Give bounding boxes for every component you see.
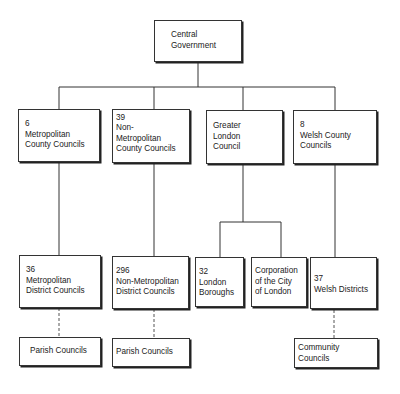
node-label: County Councils — [25, 140, 95, 151]
london-boroughs-box: 32 London Boroughs — [195, 257, 244, 307]
node-label: London — [213, 132, 278, 143]
node-count: 6 — [25, 119, 95, 130]
metropolitan-district-councils-box: 36 Metropolitan District Councils — [19, 255, 101, 308]
org-chart: Central Government 6 Metropolitan County… — [0, 0, 400, 394]
metropolitan-county-councils-box: 6 Metropolitan County Councils — [18, 109, 100, 162]
node-label: Non-Metropolitan — [116, 277, 186, 288]
node-count: 8 — [300, 120, 372, 131]
node-label: Government — [171, 41, 237, 52]
parish-councils-non-metropolitan-box: Parish Councils — [112, 338, 190, 367]
node-label: London — [199, 278, 241, 289]
node-label: Metropolitan — [26, 276, 96, 287]
node-label: Community — [298, 343, 375, 354]
community-councils-box: Community Councils — [294, 338, 378, 368]
node-label: County Councils — [116, 144, 187, 154]
node-label: Central — [171, 30, 237, 41]
welsh-county-councils-box: 8 Welsh County Councils — [293, 110, 377, 164]
node-count: 36 — [26, 265, 96, 276]
node-label: District Councils — [26, 286, 96, 297]
non-metropolitan-county-councils-box: 39 Non- Metropolitan County Councils — [112, 109, 190, 163]
node-label: Welsh County — [300, 131, 372, 142]
welsh-districts-box: 37 Welsh Districts — [310, 257, 377, 309]
node-count: 37 — [314, 274, 374, 285]
corporation-city-of-london-box: Corporation of the City of London — [251, 257, 307, 307]
node-label: Parish Councils — [116, 347, 173, 358]
node-label: Welsh Districts — [314, 285, 374, 296]
node-label: Parish Councils — [30, 346, 87, 357]
node-label: Metropolitan — [25, 130, 95, 141]
non-metropolitan-district-councils-box: 296 Non-Metropolitan District Councils — [112, 256, 189, 309]
node-label: Councils — [300, 141, 372, 152]
node-label: Corporation — [255, 266, 304, 277]
node-label: Metropolitan — [116, 134, 187, 144]
node-label: Councils — [298, 354, 375, 365]
node-label: District Councils — [116, 287, 186, 298]
node-label: Non- — [116, 123, 187, 133]
node-count: 39 — [116, 113, 187, 123]
node-count: 296 — [116, 266, 186, 277]
node-label: Council — [213, 142, 278, 153]
node-label: of London — [255, 287, 304, 298]
central-government-box: Central Government — [154, 20, 242, 62]
node-label: of the City — [255, 277, 304, 288]
parish-councils-metropolitan-box: Parish Councils — [19, 337, 101, 366]
node-label: Boroughs — [199, 288, 241, 299]
node-label: Greater — [213, 121, 278, 132]
greater-london-council-box: Greater London Council — [206, 110, 283, 164]
node-count: 32 — [199, 267, 241, 278]
